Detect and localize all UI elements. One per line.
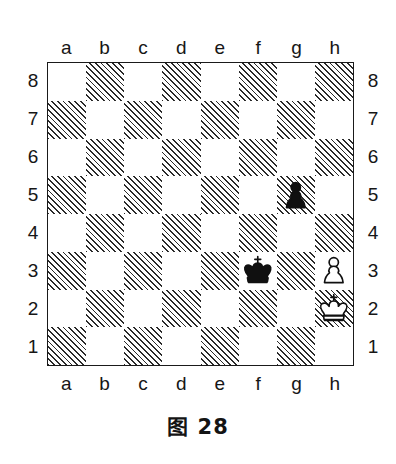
board-square-b8[interactable] <box>86 63 124 101</box>
board-square-f5[interactable] <box>239 176 277 214</box>
board-square-h3[interactable] <box>315 252 353 290</box>
board-square-h2[interactable] <box>315 290 353 328</box>
file-label-top-g: g <box>277 38 315 58</box>
board-square-a2[interactable] <box>48 290 86 328</box>
board-square-f7[interactable] <box>239 101 277 139</box>
board-square-e2[interactable] <box>201 290 239 328</box>
board-square-d4[interactable] <box>162 214 200 252</box>
chess-board[interactable] <box>47 62 354 366</box>
board-square-e5[interactable] <box>201 176 239 214</box>
board-square-c3[interactable] <box>124 252 162 290</box>
board-square-b2[interactable] <box>86 290 124 328</box>
board-square-a8[interactable] <box>48 63 86 101</box>
board-square-c7[interactable] <box>124 101 162 139</box>
board-square-b5[interactable] <box>86 176 124 214</box>
board-square-b7[interactable] <box>86 101 124 139</box>
file-label-bottom-f: f <box>239 374 277 394</box>
rank-label-left-5: 5 <box>22 185 44 205</box>
rank-label-right-7: 7 <box>362 109 384 129</box>
rank-label-left-1: 1 <box>22 337 44 357</box>
rank-label-right-6: 6 <box>362 147 384 167</box>
board-square-f8[interactable] <box>239 63 277 101</box>
file-label-bottom-d: d <box>162 374 200 394</box>
board-square-d8[interactable] <box>162 63 200 101</box>
board-square-g3[interactable] <box>277 252 315 290</box>
file-label-top-f: f <box>239 38 277 58</box>
board-square-a6[interactable] <box>48 139 86 177</box>
board-square-f3[interactable] <box>239 252 277 290</box>
board-square-b1[interactable] <box>86 327 124 365</box>
board-square-g1[interactable] <box>277 327 315 365</box>
piece-black-king-f3[interactable] <box>239 252 277 290</box>
rank-label-right-3: 3 <box>362 261 384 281</box>
rank-label-left-6: 6 <box>22 147 44 167</box>
board-square-c2[interactable] <box>124 290 162 328</box>
board-square-c1[interactable] <box>124 327 162 365</box>
board-square-b4[interactable] <box>86 214 124 252</box>
file-label-bottom-g: g <box>277 374 315 394</box>
file-label-top-d: d <box>162 38 200 58</box>
board-square-c5[interactable] <box>124 176 162 214</box>
rank-label-right-2: 2 <box>362 299 384 319</box>
chess-diagram-figure: abcdefgh 87654321 <box>0 0 396 464</box>
board-square-d3[interactable] <box>162 252 200 290</box>
board-grid <box>48 63 353 365</box>
rank-label-left-3: 3 <box>22 261 44 281</box>
rank-label-right-1: 1 <box>362 337 384 357</box>
board-square-e6[interactable] <box>201 139 239 177</box>
board-square-c6[interactable] <box>124 139 162 177</box>
figure-caption: 图 28 <box>0 410 396 440</box>
board-square-a3[interactable] <box>48 252 86 290</box>
board-square-f2[interactable] <box>239 290 277 328</box>
file-label-bottom-e: e <box>201 374 239 394</box>
board-square-e1[interactable] <box>201 327 239 365</box>
board-square-g5[interactable] <box>277 176 315 214</box>
board-square-d1[interactable] <box>162 327 200 365</box>
board-square-g4[interactable] <box>277 214 315 252</box>
board-square-h5[interactable] <box>315 176 353 214</box>
board-square-h7[interactable] <box>315 101 353 139</box>
rank-label-left-2: 2 <box>22 299 44 319</box>
board-square-d6[interactable] <box>162 139 200 177</box>
board-square-g2[interactable] <box>277 290 315 328</box>
rank-label-right-8: 8 <box>362 71 384 91</box>
board-square-h4[interactable] <box>315 214 353 252</box>
board-square-d7[interactable] <box>162 101 200 139</box>
rank-label-left-7: 7 <box>22 109 44 129</box>
board-square-g6[interactable] <box>277 139 315 177</box>
board-square-a5[interactable] <box>48 176 86 214</box>
file-label-bottom-b: b <box>85 374 123 394</box>
board-square-h1[interactable] <box>315 327 353 365</box>
board-square-f4[interactable] <box>239 214 277 252</box>
piece-white-pawn-h3[interactable] <box>315 252 353 290</box>
board-square-c8[interactable] <box>124 63 162 101</box>
board-square-h6[interactable] <box>315 139 353 177</box>
piece-white-king-h2[interactable] <box>315 290 353 328</box>
board-square-f6[interactable] <box>239 139 277 177</box>
file-label-top-a: a <box>47 38 85 58</box>
rank-label-right-5: 5 <box>362 185 384 205</box>
file-label-top-b: b <box>85 38 123 58</box>
board-square-f1[interactable] <box>239 327 277 365</box>
board-square-g8[interactable] <box>277 63 315 101</box>
board-square-a1[interactable] <box>48 327 86 365</box>
board-square-d2[interactable] <box>162 290 200 328</box>
board-square-e8[interactable] <box>201 63 239 101</box>
piece-black-pawn-g5[interactable] <box>277 176 315 214</box>
board-square-b6[interactable] <box>86 139 124 177</box>
board-square-c4[interactable] <box>124 214 162 252</box>
board-square-h8[interactable] <box>315 63 353 101</box>
board-square-g7[interactable] <box>277 101 315 139</box>
board-square-a7[interactable] <box>48 101 86 139</box>
board-square-e7[interactable] <box>201 101 239 139</box>
board-square-e4[interactable] <box>201 214 239 252</box>
board-square-e3[interactable] <box>201 252 239 290</box>
file-label-bottom-h: h <box>316 374 354 394</box>
rank-label-left-8: 8 <box>22 71 44 91</box>
board-square-d5[interactable] <box>162 176 200 214</box>
file-label-top-c: c <box>124 38 162 58</box>
file-label-top-e: e <box>201 38 239 58</box>
file-label-bottom-a: a <box>47 374 85 394</box>
board-square-a4[interactable] <box>48 214 86 252</box>
board-square-b3[interactable] <box>86 252 124 290</box>
